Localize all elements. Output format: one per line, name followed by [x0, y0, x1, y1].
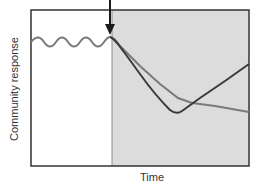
- x-axis-label: Time: [112, 171, 192, 183]
- y-axis-label: Community response: [2, 34, 26, 144]
- chart-canvas: [0, 0, 262, 189]
- post-disturbance-region: [112, 10, 249, 166]
